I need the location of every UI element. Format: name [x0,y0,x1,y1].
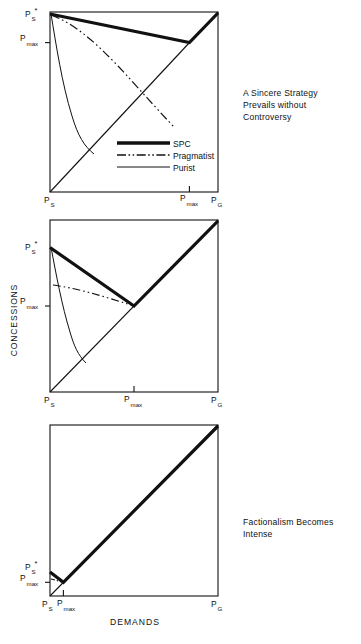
svg-text:*: * [35,239,38,248]
figure-three-panel-concessions-demands: P S * P max P S P max P G [0,0,361,644]
svg-text:P: P [211,195,217,205]
series-purist [51,247,86,363]
svg-text:S: S [51,401,55,408]
svg-text:G: G [218,201,223,208]
legend-label-pragmatist: Pragmatist [173,151,215,161]
svg-text:P: P [25,562,31,572]
svg-text:P: P [20,573,26,583]
svg-text:P: P [20,33,26,43]
x-label-pmax: P max [180,193,199,207]
x-label-pg: P G [211,395,223,408]
x-label-pmax: P max [57,598,76,612]
svg-text:P: P [180,193,186,203]
svg-text:P: P [25,242,31,252]
svg-text:S: S [32,15,36,22]
panel-2-plot: P S * P max P S P max P G [0,212,361,424]
panel-factionalism: P S * P max P S P max P G Factionalism B… [0,212,361,424]
y-axis-title: CONCESSIONS [9,275,19,365]
svg-text:P: P [211,395,217,405]
svg-text:P: P [20,296,26,306]
svg-text:P: P [44,395,50,405]
x-label-ps: P S [44,195,55,208]
svg-text:S: S [32,248,36,255]
series-spc [50,426,218,582]
svg-text:max: max [27,580,40,587]
y-label-ps-star: P S * [25,559,38,575]
y-label-pmax: P max [20,296,39,310]
panel-harmony-restored: P S * P max P S P max P G Harmony Restor… [0,420,361,644]
svg-text:max: max [187,200,200,207]
series-purist [51,14,94,154]
y-label-ps-star: P S * [25,6,38,22]
x-label-pg: P G [211,195,223,208]
y-label-ps-star: P S * [25,239,38,255]
svg-text:max: max [64,605,77,612]
panel-3-plot: P S * P max P S P max P G [0,420,361,644]
svg-text:P: P [44,195,50,205]
svg-text:max: max [27,303,40,310]
svg-text:S: S [49,605,53,612]
x-label-ps: P S [44,395,55,408]
svg-text:P: P [25,9,31,19]
svg-text:G: G [218,605,223,612]
svg-text:P: P [211,599,217,609]
y-label-pmax: P max [20,573,39,587]
svg-text:P: P [57,598,63,608]
svg-text:max: max [27,40,40,47]
svg-text:*: * [35,6,38,15]
svg-text:P: P [124,394,130,404]
svg-text:S: S [51,201,55,208]
x-label-pmax: P max [124,394,143,408]
panel-sincere-strategy: P S * P max P S P max P G [0,0,361,215]
x-label-ps: P S [42,599,53,612]
series-spc [50,221,218,306]
svg-text:P: P [42,599,48,609]
y-label-pmax: P max [20,33,39,47]
legend: SPC Pragmatist Purist [117,139,215,173]
svg-text:S: S [32,568,36,575]
svg-text:max: max [131,401,144,408]
x-label-pg: P G [211,599,223,612]
series-pragmatist [53,285,134,306]
series-pragmatist [51,15,175,128]
svg-text:G: G [218,401,223,408]
panel-1-caption: A Sincere Strategy Prevails without Cont… [243,88,318,124]
legend-label-purist: Purist [173,163,196,173]
svg-text:*: * [35,559,38,568]
legend-label-spc: SPC [173,139,191,149]
x-axis-title: DEMANDS [110,617,160,627]
